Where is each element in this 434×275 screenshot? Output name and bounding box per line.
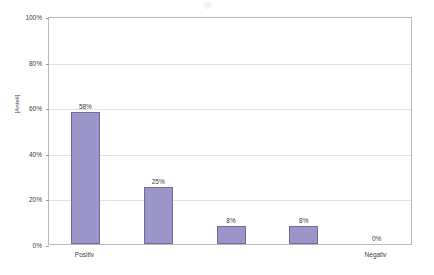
bar (71, 112, 100, 244)
bar-value-label: 8% (226, 217, 235, 224)
bar (289, 226, 318, 244)
y-axis-title: [Anteil] (14, 74, 20, 134)
plot-area: 58%25%8%8%0% (48, 17, 412, 245)
gridline (49, 64, 411, 65)
gridline (49, 155, 411, 156)
bar-value-label: 25% (152, 178, 165, 185)
bar-value-label: 8% (299, 217, 308, 224)
bar (144, 187, 173, 244)
y-tick-mark (46, 18, 49, 19)
bar (217, 226, 246, 244)
y-tick-label: 100% (0, 14, 42, 21)
y-tick-mark (46, 200, 49, 201)
y-tick-mark (46, 155, 49, 156)
y-tick-label: 60% (0, 105, 42, 112)
gridline (49, 109, 411, 110)
bar-chart-figure: [Anteil] 0%20%40%60%80%100% 58%25%8%8%0%… (0, 0, 434, 275)
y-tick-mark (46, 109, 49, 110)
y-tick-label: 0% (0, 242, 42, 249)
scan-artifact (203, 1, 212, 9)
y-tick-mark (46, 246, 49, 247)
bar-value-label: 0% (372, 235, 381, 242)
y-tick-label: 80% (0, 59, 42, 66)
gridline (49, 200, 411, 201)
x-category-label: Negativ (365, 251, 387, 258)
bar-value-label: 58% (79, 103, 92, 110)
x-category-label: Positiv (75, 251, 94, 258)
y-tick-label: 40% (0, 150, 42, 157)
y-tick-mark (46, 64, 49, 65)
y-tick-label: 20% (0, 196, 42, 203)
